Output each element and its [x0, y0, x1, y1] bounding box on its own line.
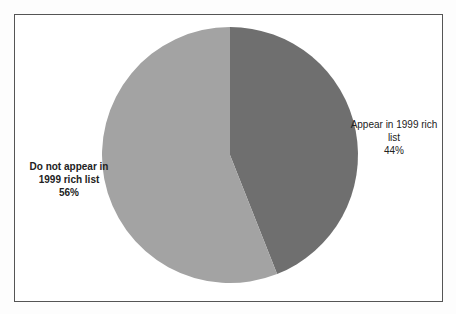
data-label-appear: Appear in 1999 rich list 44% [342, 118, 446, 157]
label-line: list [342, 131, 446, 144]
label-percent: 56% [14, 186, 124, 199]
label-line: 1999 rich list [14, 173, 124, 186]
data-label-not-appear: Do not appear in 1999 rich list 56% [14, 160, 124, 199]
pie-chart [0, 0, 456, 314]
label-percent: 44% [342, 144, 446, 157]
label-line: Appear in 1999 rich [342, 118, 446, 131]
label-line: Do not appear in [14, 160, 124, 173]
